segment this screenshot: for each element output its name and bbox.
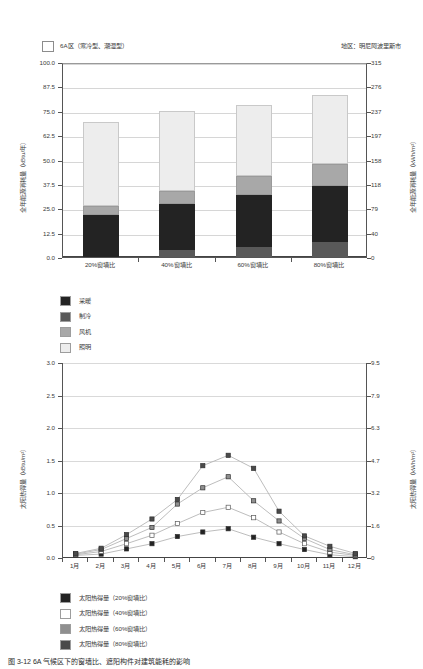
y-tick-mark-left — [58, 87, 62, 88]
y-tick-mark-left-solar — [58, 428, 62, 429]
gridline — [63, 64, 366, 65]
x-tick-mark-solar — [164, 558, 165, 562]
data-point-marker — [201, 464, 205, 468]
legend-label: 制冷 — [79, 313, 91, 319]
y-tick-label-left-solar: 0.0 — [0, 555, 55, 561]
y-tick-mark-left-solar — [58, 493, 62, 494]
legend-swatch-icon — [60, 327, 71, 337]
x-axis-label: 60%窗墙比 — [213, 262, 293, 268]
legend-swatch-icon — [60, 312, 71, 322]
data-point-marker — [175, 497, 179, 501]
gridline — [63, 88, 366, 89]
bar-segment-heat — [312, 186, 348, 243]
legend-item[interactable]: 太阳热得量（20%窗墙比） — [60, 592, 240, 608]
data-point-marker — [277, 519, 281, 523]
y-tick-mark-right — [367, 112, 371, 113]
legend-label: 太阳热得量（60%窗墙比） — [79, 626, 151, 632]
y-tick-mark-left — [58, 161, 62, 162]
data-point-marker — [226, 505, 230, 509]
x-axis-label: 80%窗墙比 — [289, 262, 369, 268]
data-point-marker — [277, 542, 281, 546]
data-point-marker — [150, 517, 154, 521]
data-point-marker — [302, 542, 306, 546]
data-point-marker — [353, 551, 357, 555]
data-point-marker — [201, 510, 205, 514]
bar-segment-light — [312, 95, 348, 164]
y-tick-label-right-solar: 6.3 — [371, 425, 423, 431]
bar-segment-heat — [236, 195, 272, 248]
legend-item[interactable]: 采暖 — [60, 295, 180, 311]
y-tick-mark-left — [58, 63, 62, 64]
data-point-marker — [124, 533, 128, 537]
x-tick-mark-solar — [265, 558, 266, 562]
legend-item[interactable]: 风机 — [60, 326, 180, 342]
y-tick-mark-left-solar — [58, 461, 62, 462]
x-tick-mark — [138, 258, 139, 262]
bar-segment-cool — [159, 250, 195, 257]
data-point-marker — [201, 486, 205, 490]
y-tick-mark-left — [58, 234, 62, 235]
x-tick-mark — [215, 258, 216, 262]
y-tick-label-right-solar: 4.7 — [371, 457, 423, 463]
x-tick-mark-solar — [342, 558, 343, 562]
legend-swatch-icon — [60, 609, 71, 619]
line-plot-area — [62, 363, 367, 558]
legend-label: 太阳热得量（80%窗墙比） — [79, 641, 151, 647]
y-tick-mark-right — [367, 161, 371, 162]
legend-item[interactable]: 太阳热得量（80%窗墙比） — [60, 639, 240, 655]
x-tick-mark-solar — [291, 558, 292, 562]
legend-item[interactable]: 太阳热得量（60%窗墙比） — [60, 623, 240, 639]
y-tick-label-left: 0.0 — [0, 255, 55, 261]
table-row — [159, 111, 195, 257]
y-tick-label-right: 118 — [371, 182, 423, 188]
data-point-marker — [277, 530, 281, 534]
bar-segment-light — [83, 122, 119, 206]
bar-segment-heat — [159, 204, 195, 250]
data-point-marker — [302, 547, 306, 551]
data-point-marker — [226, 475, 230, 479]
y-tick-mark-right-solar — [367, 526, 371, 527]
data-point-marker — [175, 521, 179, 525]
legend-label: 太阳热得量（20%窗墙比） — [79, 595, 151, 601]
legend-label: 采暖 — [79, 298, 91, 304]
y-tick-label-right: 0 — [371, 255, 423, 261]
data-point-marker — [226, 453, 230, 457]
bar-segment-fan — [312, 164, 348, 185]
x-tick-mark-solar — [87, 558, 88, 562]
data-point-marker — [150, 525, 154, 529]
y-tick-mark-right-solar — [367, 428, 371, 429]
x-tick-mark-solar — [316, 558, 317, 562]
legend-label: 风机 — [79, 329, 91, 335]
stacked-bar-plot-area — [62, 63, 367, 258]
data-point-marker — [150, 533, 154, 537]
legend-item[interactable]: 制冷 — [60, 311, 180, 327]
legend-swatch-icon — [60, 593, 71, 603]
y-tick-mark-left — [58, 185, 62, 186]
bar-segment-light — [236, 105, 272, 176]
x-tick-mark-solar — [113, 558, 114, 562]
data-point-marker — [74, 551, 78, 555]
y-tick-label-right: 79 — [371, 206, 423, 212]
y-tick-mark-left — [58, 112, 62, 113]
solar-gain-legend: 太阳热得量（20%窗墙比）太阳热得量（40%窗墙比）太阳热得量（60%窗墙比）太… — [60, 592, 240, 654]
bar-segment-fan — [159, 191, 195, 205]
y-tick-label-left: 50.0 — [0, 157, 55, 163]
data-point-marker — [175, 502, 179, 506]
data-point-marker — [252, 535, 256, 539]
bar-segment-fan — [83, 206, 119, 215]
y-tick-label-left: 100.0 — [0, 60, 55, 66]
data-point-marker — [150, 542, 154, 546]
legend-item[interactable]: 太阳热得量（40%窗墙比） — [60, 608, 240, 624]
figure-page: 6A区（寒冷型、潮湿型） 地区：明尼阿波里斯市 全年能源消耗量（kBtu/年） … — [0, 0, 423, 669]
y-tick-mark-right-solar — [367, 493, 371, 494]
y-tick-label-left-solar: 2.0 — [0, 425, 55, 431]
x-tick-mark-solar — [215, 558, 216, 562]
table-row — [236, 105, 272, 257]
legend-swatch-icon — [60, 640, 71, 650]
y-tick-label-right: 237 — [371, 109, 423, 115]
y-tick-label-left-solar: 2.5 — [0, 392, 55, 398]
data-point-marker — [201, 530, 205, 534]
y-tick-mark-right — [367, 209, 371, 210]
y-tick-mark-left — [58, 209, 62, 210]
y-tick-label-left: 12.5 — [0, 231, 55, 237]
